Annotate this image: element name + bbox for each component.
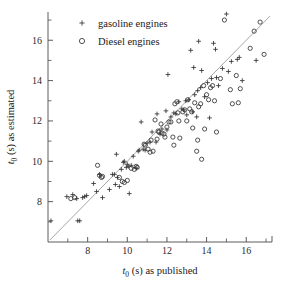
point-marker-plus — [127, 191, 132, 196]
point-marker-plus — [216, 83, 221, 88]
point-marker-circle — [236, 101, 240, 105]
identity-line — [50, 16, 270, 240]
point-marker-plus — [107, 187, 112, 192]
legend-label-gasoline: gasoline engines — [98, 18, 168, 29]
identity-reference-line — [50, 16, 270, 240]
point-marker-plus — [100, 195, 105, 200]
y-tick-label: 10 — [32, 156, 42, 167]
point-marker-plus — [196, 39, 201, 44]
legend-marker-plus — [79, 20, 84, 25]
point-marker-circle — [212, 99, 216, 103]
point-marker-circle — [191, 126, 195, 130]
point-marker-circle — [185, 119, 189, 123]
point-marker-circle — [248, 46, 252, 50]
point-marker-plus — [119, 167, 124, 172]
point-marker-plus — [188, 48, 193, 53]
point-marker-plus — [117, 184, 122, 189]
x-tick-label: 16 — [241, 245, 251, 256]
point-marker-circle — [238, 87, 242, 91]
point-marker-plus — [137, 148, 142, 153]
point-marker-plus — [195, 88, 200, 93]
point-marker-circle — [230, 102, 234, 106]
point-marker-circle — [149, 138, 153, 142]
legend: gasoline enginesDiesel engines — [79, 18, 167, 47]
point-marker-circle — [178, 136, 182, 140]
scatter-figure: 810121416810121416 gasoline enginesDiese… — [0, 0, 293, 286]
point-marker-plus — [211, 41, 216, 46]
point-marker-plus — [229, 59, 234, 64]
point-marker-plus — [94, 189, 99, 194]
point-marker-plus — [213, 47, 218, 52]
point-marker-circle — [214, 130, 218, 134]
x-tick-label: 10 — [122, 245, 132, 256]
point-marker-plus — [240, 78, 245, 83]
point-marker-plus — [226, 69, 231, 74]
point-marker-circle — [73, 196, 77, 200]
point-marker-plus — [114, 152, 119, 157]
point-marker-circle — [159, 122, 163, 126]
point-marker-circle — [171, 135, 175, 139]
point-marker-circle — [195, 149, 199, 153]
point-marker-plus — [139, 120, 144, 125]
point-marker-circle — [228, 88, 232, 92]
y-axis-title: t0 (s) as estimated — [5, 89, 19, 164]
point-marker-plus — [91, 181, 96, 186]
point-marker-plus — [192, 92, 197, 97]
y-tick-label: 14 — [32, 75, 42, 86]
point-marker-plus — [207, 116, 212, 121]
point-marker-plus — [155, 112, 160, 117]
y-tick-label: 8 — [37, 196, 42, 207]
point-marker-plus — [184, 113, 189, 118]
x-tick-label: 8 — [85, 245, 90, 256]
point-marker-circle — [204, 93, 208, 97]
point-marker-plus — [199, 68, 204, 73]
y-tick-label: 12 — [32, 115, 42, 126]
point-marker-plus — [131, 154, 136, 159]
point-marker-circle — [176, 111, 180, 115]
point-marker-plus — [164, 109, 169, 114]
point-marker-circle — [218, 76, 222, 80]
point-marker-plus — [191, 65, 196, 70]
point-marker-circle — [177, 119, 181, 123]
x-tick-label: 14 — [202, 245, 212, 256]
point-marker-circle — [262, 52, 266, 56]
legend-marker-circle — [79, 38, 84, 43]
point-marker-circle — [95, 163, 99, 167]
point-marker-circle — [155, 137, 159, 141]
point-marker-circle — [234, 73, 238, 77]
point-marker-circle — [206, 98, 210, 102]
x-tick-label: 12 — [162, 245, 172, 256]
point-marker-plus — [254, 58, 259, 63]
point-marker-plus — [166, 72, 171, 77]
point-marker-circle — [153, 118, 157, 122]
point-marker-circle — [222, 18, 226, 22]
point-marker-circle — [200, 157, 204, 161]
y-axis-title-rest: (s) as estimated — [5, 89, 17, 158]
x-axis-title: t0 (s) as published — [122, 265, 198, 279]
point-marker-plus — [136, 149, 141, 154]
point-marker-plus — [150, 130, 155, 135]
point-marker-plus — [220, 66, 225, 71]
point-marker-circle — [203, 127, 207, 131]
point-marker-circle — [196, 138, 200, 142]
legend-label-diesel: Diesel engines — [98, 36, 160, 47]
point-marker-circle — [172, 143, 176, 147]
point-marker-plus — [49, 219, 54, 224]
point-marker-circle — [258, 20, 262, 24]
x-axis-title-rest: (s) as published — [129, 265, 198, 277]
point-marker-plus — [113, 182, 118, 187]
point-marker-plus — [224, 12, 229, 17]
y-tick-label: 16 — [32, 35, 42, 46]
point-marker-circle — [69, 197, 73, 201]
plot-canvas: 810121416810121416 gasoline enginesDiese… — [0, 0, 293, 286]
point-marker-circle — [193, 101, 197, 105]
point-marker-plus — [194, 115, 199, 120]
